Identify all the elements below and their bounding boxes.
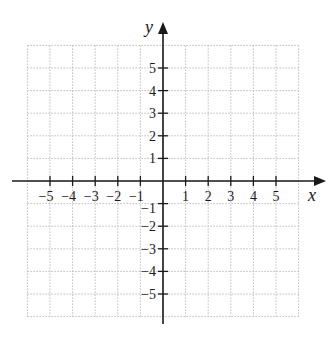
y-axis-arrow-icon xyxy=(158,22,168,34)
x-axis-label: x xyxy=(307,185,316,205)
x-tick-label: 3 xyxy=(227,189,234,204)
x-tick-label: 5 xyxy=(273,189,280,204)
x-tick-label: −3 xyxy=(84,189,99,204)
y-tick-label: 4 xyxy=(149,84,156,99)
y-tick-label: −1 xyxy=(141,201,156,216)
x-tick-label: 4 xyxy=(250,189,257,204)
y-tick-label: −2 xyxy=(141,219,156,234)
y-tick-label: 3 xyxy=(149,106,156,121)
x-tick-label: 2 xyxy=(205,189,212,204)
y-tick-label: −5 xyxy=(141,287,156,302)
x-tick-label: −4 xyxy=(61,189,76,204)
y-tick-label: 1 xyxy=(149,151,156,166)
axes xyxy=(12,22,326,324)
y-tick-label: −4 xyxy=(141,264,156,279)
x-tick-label: −2 xyxy=(106,189,121,204)
x-tick-label: 1 xyxy=(182,189,189,204)
y-axis-label: y xyxy=(143,17,153,37)
coordinate-plane: −5−4−3−2−11234554321−1−2−3−4−5 x y xyxy=(0,0,334,349)
y-tick-label: −3 xyxy=(141,242,156,257)
x-tick-label: −5 xyxy=(39,189,54,204)
y-tick-label: 5 xyxy=(149,61,156,76)
y-tick-label: 2 xyxy=(149,129,156,144)
